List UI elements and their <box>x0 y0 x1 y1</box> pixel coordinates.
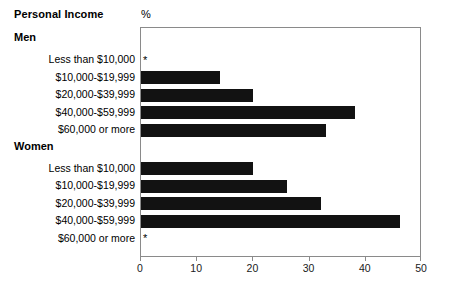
category-label: $60,000 or more <box>58 123 135 135</box>
category-label: $40,000-$59,999 <box>56 106 135 118</box>
suppressed-value-marker: * <box>143 54 147 67</box>
bar <box>141 162 253 175</box>
bar <box>141 215 400 228</box>
bar <box>141 197 321 210</box>
x-axis-tick-label: 10 <box>190 262 202 274</box>
bar <box>141 71 220 84</box>
bar <box>141 180 287 193</box>
x-axis-tick <box>140 257 141 261</box>
axis-unit-label: % <box>141 8 151 20</box>
x-axis-tick-label: 30 <box>303 262 315 274</box>
x-axis-tick <box>196 257 197 261</box>
page-title: Personal Income <box>14 8 104 20</box>
category-label: $60,000 or more <box>58 232 135 244</box>
x-axis-tick <box>309 257 310 261</box>
x-axis-tick-label: 20 <box>247 262 259 274</box>
bar <box>141 106 355 119</box>
bar <box>141 89 253 102</box>
x-axis-tick-label: 0 <box>137 262 143 274</box>
plot-area: ** <box>140 27 421 257</box>
suppressed-value-marker: * <box>143 232 147 245</box>
x-axis-tick-label: 50 <box>415 262 427 274</box>
personal-income-bar-chart: Personal Income % ** MenLess than $10,00… <box>0 0 449 282</box>
x-axis-tick <box>365 257 366 261</box>
category-label: $20,000-$39,999 <box>56 88 135 100</box>
group-heading-women: Women <box>14 140 54 152</box>
category-label: $40,000-$59,999 <box>56 214 135 226</box>
category-label: Less than $10,000 <box>49 53 135 65</box>
category-label: $10,000-$19,999 <box>56 179 135 191</box>
category-label: $20,000-$39,999 <box>56 197 135 209</box>
group-heading-men: Men <box>14 31 36 43</box>
category-label: $10,000-$19,999 <box>56 71 135 83</box>
x-axis-tick <box>420 257 421 261</box>
x-axis-tick <box>252 257 253 261</box>
x-axis-tick-label: 40 <box>359 262 371 274</box>
bar <box>141 124 326 137</box>
category-label: Less than $10,000 <box>49 162 135 174</box>
